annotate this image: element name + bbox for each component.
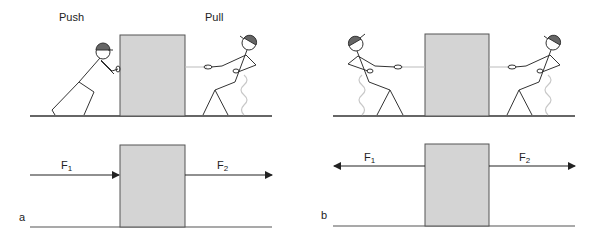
box bbox=[425, 34, 489, 116]
force-label-f1-a: F1 bbox=[61, 159, 72, 173]
panel-a-free-body bbox=[30, 145, 272, 227]
force-diagram bbox=[0, 0, 593, 237]
force-symbol: F bbox=[364, 151, 371, 163]
force-subscript: 1 bbox=[371, 156, 375, 165]
puller-figure bbox=[203, 35, 257, 115]
panel-b-scene bbox=[333, 34, 575, 116]
force-subscript: 2 bbox=[224, 164, 228, 173]
force-subscript: 2 bbox=[526, 156, 530, 165]
panel-a-scene bbox=[30, 35, 272, 116]
panel-letter-a: a bbox=[19, 211, 25, 223]
force-symbol: F bbox=[519, 151, 526, 163]
box bbox=[425, 144, 489, 226]
pusher-figure bbox=[52, 43, 120, 115]
left-puller-figure bbox=[348, 34, 403, 115]
force-symbol: F bbox=[217, 159, 224, 171]
panel-letter-b: b bbox=[321, 209, 327, 221]
force-symbol: F bbox=[61, 159, 68, 171]
force-label-f1-b: F1 bbox=[364, 151, 375, 165]
box bbox=[120, 145, 185, 227]
force-label-f2-a: F2 bbox=[217, 159, 228, 173]
box bbox=[120, 35, 185, 116]
push-label: Push bbox=[59, 11, 84, 23]
force-subscript: 1 bbox=[68, 164, 72, 173]
force-label-f2-b: F2 bbox=[519, 151, 530, 165]
pull-label: Pull bbox=[205, 11, 223, 23]
right-puller-figure bbox=[507, 35, 561, 115]
